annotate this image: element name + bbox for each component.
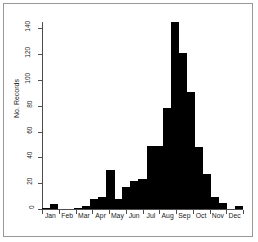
y-tick-label-text: 120	[25, 47, 32, 58]
y-tick-label-120: 120	[10, 49, 34, 56]
y-tick-label-140: 140	[10, 23, 34, 30]
y-tick-label-40: 40	[10, 152, 34, 159]
y-tick-label-80: 80	[10, 101, 34, 108]
histogram-plot: No. Records 020406080100120140 JanFebMar…	[0, 0, 258, 242]
bar-group	[42, 22, 243, 209]
y-tick-label-text: 0	[29, 205, 36, 209]
y-tick-label-60: 60	[10, 127, 34, 134]
y-tick-label-text: 100	[25, 73, 32, 84]
y-tick-label-text: 140	[25, 21, 32, 32]
y-tick-label-100: 100	[10, 75, 34, 82]
y-tick-label-text: 20	[27, 178, 34, 185]
bar	[50, 204, 58, 209]
y-tick-label-0: 0	[10, 204, 34, 211]
y-tick-label-text: 60	[27, 127, 34, 134]
x-tick-label-dec: Dec	[223, 213, 247, 220]
bar	[235, 206, 243, 209]
y-tick-label-text: 40	[27, 152, 34, 159]
y-tick-label-20: 20	[10, 178, 34, 185]
y-tick-label-text: 80	[27, 101, 34, 108]
bar	[219, 203, 227, 209]
